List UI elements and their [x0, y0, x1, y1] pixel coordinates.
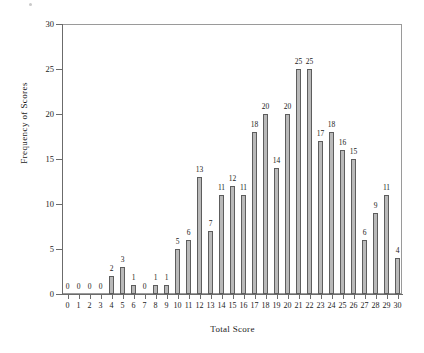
x-axis-tick	[376, 294, 377, 299]
bar	[340, 150, 345, 294]
bar	[252, 132, 257, 294]
bar-value-label: 18	[321, 121, 343, 129]
x-axis-tick	[200, 294, 201, 299]
y-axis-tick-label: 15	[28, 155, 54, 164]
x-axis-tick	[233, 294, 234, 299]
bar	[351, 159, 356, 294]
x-axis-tick	[332, 294, 333, 299]
bar-value-label: 3	[112, 256, 134, 264]
bar-chart: 051015202530 012345678910111213141516171…	[0, 0, 424, 353]
x-axis-tick	[178, 294, 179, 299]
bar	[109, 276, 114, 294]
bar-value-label: 11	[376, 184, 398, 192]
y-axis-tick-label: 20	[28, 110, 54, 119]
x-axis-tick	[123, 294, 124, 299]
x-axis-tick	[387, 294, 388, 299]
bar-value-label: 16	[332, 139, 354, 147]
x-axis-tick	[101, 294, 102, 299]
x-axis-tick	[354, 294, 355, 299]
y-axis-tick-label: 25	[28, 65, 54, 74]
x-axis-tick-label: 30	[389, 302, 407, 310]
x-axis-tick	[343, 294, 344, 299]
bar	[153, 285, 158, 294]
x-axis-tick	[222, 294, 223, 299]
x-axis-title: Total Score	[62, 324, 403, 334]
bar	[384, 195, 389, 294]
bar	[186, 240, 191, 294]
bar-value-label: 15	[343, 148, 365, 156]
y-axis-title: Frequency of Scores	[19, 33, 29, 213]
bar-value-label: 1	[123, 274, 145, 282]
bar	[373, 213, 378, 294]
bar	[307, 69, 312, 294]
x-axis-tick	[321, 294, 322, 299]
y-axis-tick	[56, 294, 62, 295]
bar	[362, 240, 367, 294]
x-axis-tick	[79, 294, 80, 299]
bar	[263, 114, 268, 294]
x-axis-tick	[255, 294, 256, 299]
bar-value-label: 20	[255, 103, 277, 111]
bar	[285, 114, 290, 294]
x-axis-tick	[211, 294, 212, 299]
x-axis-tick	[365, 294, 366, 299]
x-axis-tick	[398, 294, 399, 299]
bar	[164, 285, 169, 294]
bar	[219, 195, 224, 294]
bar	[329, 132, 334, 294]
x-axis-tick	[90, 294, 91, 299]
x-axis-tick	[68, 294, 69, 299]
x-axis-tick	[189, 294, 190, 299]
x-axis-tick	[266, 294, 267, 299]
y-axis-tick-label: 30	[28, 20, 54, 29]
x-axis-tick	[277, 294, 278, 299]
bar	[274, 168, 279, 294]
x-axis-tick	[167, 294, 168, 299]
bar	[197, 177, 202, 294]
bar	[395, 258, 400, 294]
x-axis-tick	[145, 294, 146, 299]
bar-value-label: 13	[189, 166, 211, 174]
bar-value-label: 25	[299, 58, 321, 66]
bar-value-label: 12	[222, 175, 244, 183]
bar	[241, 195, 246, 294]
x-axis-tick	[156, 294, 157, 299]
y-axis-tick-label: 5	[28, 245, 54, 254]
bar-value-label: 4	[387, 247, 409, 255]
bar	[230, 186, 235, 294]
y-axis-tick-label: 10	[28, 200, 54, 209]
bar	[318, 141, 323, 294]
x-axis-tick	[244, 294, 245, 299]
x-axis-tick	[112, 294, 113, 299]
x-axis-tick	[288, 294, 289, 299]
x-axis-tick	[299, 294, 300, 299]
scan-artifact-speck	[29, 3, 32, 6]
bar	[175, 249, 180, 294]
x-axis-tick	[310, 294, 311, 299]
y-axis-tick-label: 0	[28, 290, 54, 299]
bar	[296, 69, 301, 294]
x-axis-tick	[134, 294, 135, 299]
bar	[208, 231, 213, 294]
bars-layer: 0000231011561371112111820142025251718161…	[62, 24, 403, 294]
